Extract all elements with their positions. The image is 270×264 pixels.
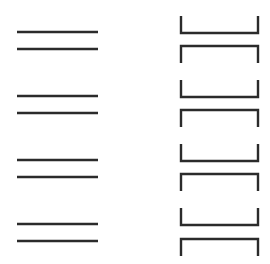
diagram-canvas [0, 0, 270, 264]
diagram-svg [0, 0, 270, 264]
